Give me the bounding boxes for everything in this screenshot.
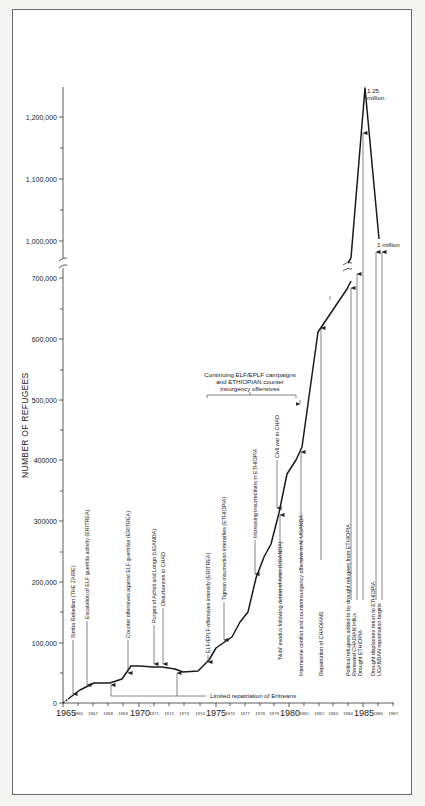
campaign-label-line3: insurgency offensives: [220, 385, 279, 392]
event-tigrean-insurrection: Tigrean insurrection intensifies (ETHIOP…: [221, 497, 227, 600]
y-tick-400000: 400000: [34, 457, 57, 464]
peak-value-label: 1.25: [367, 87, 380, 94]
x-tick-1976: 1976: [225, 711, 235, 716]
event-civil-war-chad: Civil war in CHAD: [274, 415, 280, 458]
x-tick-1978: 1978: [255, 711, 265, 716]
x-tick-1970: 1970: [130, 708, 150, 718]
refugee-chart: 0 100,000 200,000 300000 400000 500,000 …: [0, 0, 425, 806]
x-tick-1968: 1968: [103, 711, 113, 716]
campaign-label-line2: and ETHIOPIAN counter: [216, 378, 284, 385]
x-tick-1969: 1969: [118, 711, 128, 716]
x-tick-1985: 1985: [354, 708, 374, 718]
x-tick-1972: 1972: [164, 711, 174, 716]
x-tick-1977: 1977: [240, 711, 250, 716]
x-tick-1983: 1983: [328, 711, 338, 716]
event-ugandan-repatriation: UGANDAN repatriation begins: [376, 603, 382, 676]
peak-unit-label: million: [367, 94, 385, 101]
x-tick-1971: 1971: [149, 711, 159, 716]
one-million-label: 1 million: [377, 241, 400, 248]
y-tick-600000: 600,000: [32, 336, 57, 343]
x-tick-1986: 1986: [373, 711, 383, 716]
y-tick-1000000: 1,000,000: [26, 238, 57, 245]
y-tick-300000: 300000: [34, 518, 57, 525]
limited-repatriation-label: Limited repatriation of Eritreans: [210, 692, 296, 699]
event-counter-offensives: Counter offensives against ELF guerrilla…: [125, 511, 131, 638]
x-tick-1984: 1984: [343, 711, 353, 716]
y-axis-label: NUMBER OF REFUGEES: [20, 372, 30, 478]
event-drought-ethiopia: Drought ETHIOPIA: [357, 630, 363, 676]
x-tick-1973: 1973: [179, 711, 189, 716]
line-break-marks: [343, 262, 352, 271]
event-increasing-insurrections: Increasing insurrections in ETHIOPIA: [252, 448, 258, 538]
event-arrows-up: [280, 133, 382, 600]
x-tick-1980: 1980: [280, 708, 300, 718]
x-tick-1981: 1981: [299, 711, 309, 716]
y-tick-1200000: 1,200,000: [26, 114, 57, 121]
y-tick-0: 0: [53, 700, 57, 707]
y-tick-200000: 200,000: [32, 579, 57, 586]
x-tick-1982: 1982: [314, 711, 324, 716]
y-tick-100000: 100,000: [32, 640, 57, 647]
event-chad-disturbances: Disturbances in CHAD: [160, 552, 166, 606]
event-internecine-conflict: Internecine conflict and counterinsurgen…: [298, 514, 304, 676]
event-simba-rebellion: Simba Rebellion (THE ZAIRE): [70, 565, 76, 638]
campaign-bracket: [207, 392, 300, 404]
event-labels: Simba Rebellion (THE ZAIRE) Escalation o…: [70, 415, 382, 676]
x-tick-1974: 1974: [195, 711, 205, 716]
x-tick-labels: 1965 1966 1967 1968 1969 1970 1971 1972 …: [56, 708, 398, 718]
x-tick-1967: 1967: [88, 711, 98, 716]
x-tick-1966: 1966: [73, 711, 83, 716]
x-tick-1987: 1987: [388, 711, 398, 716]
limited-repatriation-bracket: [111, 673, 206, 696]
event-elf-escalation: Escalation of ELF guerrilla activity (ER…: [84, 509, 90, 619]
x-tick-1979: 1979: [269, 711, 279, 716]
x-tick-1975: 1975: [206, 708, 226, 718]
campaign-label-line1: Continuing ELF/EPLF campaigns: [204, 371, 296, 378]
y-tick-1100000: 1,100,000: [26, 176, 57, 183]
y-axis: [59, 87, 67, 703]
event-arrows: [73, 296, 330, 694]
y-tick-labels: 0 100,000 200,000 300000 400000 500,000 …: [26, 114, 57, 707]
y-tick-500000: 500,000: [32, 397, 57, 404]
event-nubi-exodus: 'Nubi' exodus following defeat of Amin (…: [277, 541, 283, 660]
y-tick-700000: 700,000: [32, 275, 57, 282]
event-repatriation-chadians: Repatriation of CHADIANS: [318, 611, 324, 676]
x-axis: [63, 703, 394, 707]
refugee-line: [63, 88, 379, 703]
event-elf-eplf-offensives: ELF/EPLF offensives intensify (ERITREA): [205, 553, 211, 653]
event-purges-acholi-longo: Purges of Acholi and Longo (UGANDA): [151, 529, 157, 623]
